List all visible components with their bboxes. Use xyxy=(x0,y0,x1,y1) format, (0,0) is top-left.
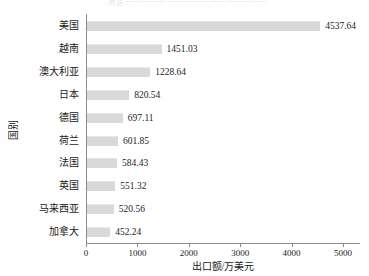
bar-value-label: 1228.64 xyxy=(155,60,186,84)
bar-row: 日本820.54 xyxy=(0,83,369,107)
x-tick-mark xyxy=(86,243,87,247)
category-label: 日本 xyxy=(0,83,79,107)
category-label: 马来西亚 xyxy=(0,197,79,221)
x-tick-label: 0 xyxy=(84,248,89,258)
bar-value-label: 697.11 xyxy=(128,106,154,130)
x-tick-label: 2000 xyxy=(180,248,198,258)
category-label: 越南 xyxy=(0,37,79,61)
bar xyxy=(87,227,110,237)
bar xyxy=(87,158,117,168)
bar xyxy=(87,113,123,123)
bar-row: 美国4537.64 xyxy=(0,14,369,38)
x-tick-mark xyxy=(240,243,241,247)
category-label: 加拿大 xyxy=(0,220,79,244)
bar xyxy=(87,67,150,77)
plot-area: 美国4537.64越南1451.03澳大利亚1228.64日本820.54德国6… xyxy=(0,0,369,276)
x-axis-title: 出口额/万美元 xyxy=(86,258,360,273)
bar-chart: 表是一一一一一一一一一一一一一一一一一 美国4537.64越南1451.03澳大… xyxy=(0,0,369,276)
bar-row: 马来西亚520.56 xyxy=(0,197,369,221)
x-tick-mark xyxy=(292,243,293,247)
bar-row: 荷兰601.85 xyxy=(0,129,369,153)
bar-row: 英国551.32 xyxy=(0,174,369,198)
bar-value-label: 452.24 xyxy=(115,220,141,244)
x-tick-label: 1000 xyxy=(128,248,146,258)
category-label: 美国 xyxy=(0,14,79,38)
y-axis-title: 国别 xyxy=(5,110,20,150)
bar xyxy=(87,181,115,191)
bar-row: 法国584.43 xyxy=(0,151,369,175)
bar-value-label: 820.54 xyxy=(134,83,160,107)
x-tick-label: 3000 xyxy=(231,248,249,258)
category-label: 法国 xyxy=(0,151,79,175)
x-tick-mark xyxy=(189,243,190,247)
bar xyxy=(87,136,118,146)
category-label: 英国 xyxy=(0,174,79,198)
x-tick-mark xyxy=(137,243,138,247)
bar-value-label: 601.85 xyxy=(123,129,149,153)
bar xyxy=(87,21,320,31)
bar-value-label: 4537.64 xyxy=(325,14,356,38)
x-tick-mark xyxy=(343,243,344,247)
category-label: 澳大利亚 xyxy=(0,60,79,84)
bar-row: 加拿大452.24 xyxy=(0,220,369,244)
bar xyxy=(87,44,162,54)
bar-value-label: 584.43 xyxy=(122,151,148,175)
bar-value-label: 520.56 xyxy=(119,197,145,221)
bar-value-label: 1451.03 xyxy=(167,37,198,61)
bar-row: 澳大利亚1228.64 xyxy=(0,60,369,84)
bar xyxy=(87,204,114,214)
x-tick-label: 5000 xyxy=(334,248,352,258)
bar-value-label: 551.32 xyxy=(120,174,146,198)
bar-row: 德国697.11 xyxy=(0,106,369,130)
x-tick-label: 4000 xyxy=(283,248,301,258)
bar xyxy=(87,90,129,100)
bar-row: 越南1451.03 xyxy=(0,37,369,61)
